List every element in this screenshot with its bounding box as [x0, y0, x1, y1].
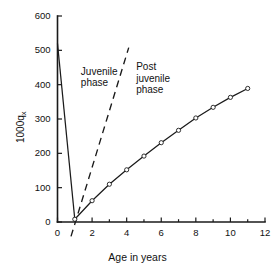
y-axis-label-text: 1000q [15, 115, 26, 143]
series-line-1 [75, 88, 248, 219]
data-point [90, 199, 94, 203]
axes [58, 16, 266, 222]
data-point [228, 95, 232, 99]
y-tick-label: 500 [0, 45, 51, 55]
x-tick-label: 8 [181, 228, 211, 238]
axis-ticks [58, 16, 266, 222]
data-point [246, 86, 250, 90]
y-tick-label: 200 [0, 148, 51, 158]
x-tick-label: 2 [77, 228, 107, 238]
chart-figure: 0100200300400500600 024681012 1000qx Age… [0, 0, 275, 276]
data-point [159, 141, 163, 145]
series-line-0 [58, 43, 75, 219]
data-point [211, 105, 215, 109]
y-axis-label-subscript: x [19, 111, 28, 115]
data-point [194, 116, 198, 120]
x-tick-label: 6 [146, 228, 176, 238]
data-point [107, 182, 111, 186]
annotation-post-juvenile-phase: Post juvenile phase [136, 61, 170, 96]
y-tick-label: 0 [0, 217, 51, 227]
data-point [73, 217, 77, 221]
x-tick-label: 0 [43, 228, 73, 238]
data-point [142, 154, 146, 158]
x-tick-label: 12 [250, 228, 275, 238]
data-point [176, 128, 180, 132]
x-tick-label: 4 [112, 228, 142, 238]
y-tick-label: 100 [0, 183, 51, 193]
data-markers [73, 86, 250, 221]
annotation-juvenile-phase: Juvenile phase [81, 66, 118, 89]
x-tick-label: 10 [215, 228, 245, 238]
x-axis-label: Age in years [0, 252, 275, 263]
y-axis-label: 1000qx [16, 111, 26, 143]
y-tick-label: 400 [0, 80, 51, 90]
data-point [125, 168, 129, 172]
y-tick-label: 600 [0, 11, 51, 21]
